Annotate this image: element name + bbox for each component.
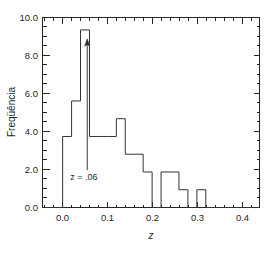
x-tick-label: 0.4	[236, 212, 249, 223]
y-tick-label: 2.0	[25, 164, 38, 175]
x-tick-label: 0.1	[101, 212, 114, 223]
histogram-figure: 0.0 2.0 4.0 6.0 8.0 10.0 0.0 0.1 0.2 0.3…	[0, 0, 273, 255]
y-tick-label: 0.0	[25, 202, 38, 213]
x-tick-label: 0.3	[191, 212, 204, 223]
x-tick-label: 0.2	[146, 212, 159, 223]
y-tick-labels: 0.0 2.0 4.0 6.0 8.0 10.0	[20, 12, 39, 213]
chart-canvas: 0.0 2.0 4.0 6.0 8.0 10.0 0.0 0.1 0.2 0.3…	[0, 0, 273, 255]
y-tick-label: 4.0	[25, 126, 38, 137]
y-tick-label: 6.0	[25, 88, 38, 99]
y-axis-title: Freqüência	[6, 87, 17, 137]
x-axis-title: z	[148, 230, 154, 241]
y-tick-label: 10.0	[20, 12, 39, 23]
peak-annotation-label: z = .06	[70, 172, 97, 182]
y-tick-label: 8.0	[25, 50, 38, 61]
x-tick-labels: 0.0 0.1 0.2 0.3 0.4	[56, 212, 249, 223]
x-tick-label: 0.0	[56, 212, 69, 223]
